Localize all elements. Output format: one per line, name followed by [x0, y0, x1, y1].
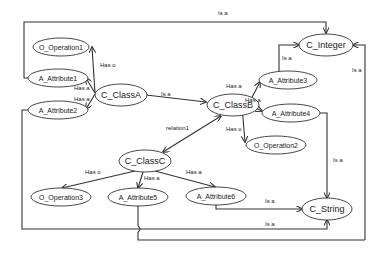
- node-label: O_Operation1: [39, 44, 83, 52]
- edge-label: Is a: [265, 221, 275, 227]
- edge-label: Has o: [85, 169, 101, 175]
- ontology-diagram: O_Operation1A_Attribute1A_Attribute2C_Cl…: [0, 0, 382, 253]
- node-o-operation3[interactable]: O_Operation3: [31, 188, 91, 206]
- diagram-svg: O_Operation1A_Attribute1A_Attribute2C_Cl…: [0, 0, 382, 253]
- node-label: C_ClassA: [101, 90, 141, 100]
- node-label: A_Attribute4: [272, 110, 311, 118]
- node-c-string[interactable]: C_String: [302, 198, 352, 220]
- node-a-attribute4[interactable]: A_Attribute4: [262, 104, 320, 122]
- edge-string-to-integer: [353, 45, 365, 240]
- edge-classC-to-attr6: [155, 171, 215, 187]
- edge-label: Has o: [226, 126, 242, 132]
- edge-classA-to-op1: [92, 47, 95, 93]
- edge-attr4-to-string: [320, 113, 327, 198]
- node-a-attribute6[interactable]: A_Attribute6: [186, 187, 246, 205]
- node-o-operation2[interactable]: O_Operation2: [246, 136, 306, 154]
- edge-classC-to-attr5: [138, 172, 143, 188]
- edge-label: Is a: [161, 91, 171, 97]
- node-c-classc[interactable]: C_ClassC: [119, 150, 171, 172]
- node-label: A_Attribute1: [39, 75, 78, 83]
- node-a-attribute5[interactable]: A_Attribute5: [108, 188, 168, 206]
- node-label: A_Attribute5: [119, 194, 158, 202]
- node-label: O_Operation3: [39, 194, 83, 202]
- edge-label: Is a: [265, 198, 275, 204]
- edge-label: Has a: [226, 83, 242, 89]
- edge-label: Is a: [218, 10, 228, 16]
- edge-label: Has o: [100, 62, 116, 68]
- node-a-attribute2[interactable]: A_Attribute2: [28, 101, 88, 119]
- node-label: O_Operation2: [254, 142, 298, 150]
- edge-label: Has a: [186, 169, 202, 175]
- node-a-attribute3[interactable]: A_Attribute3: [259, 71, 317, 89]
- node-c-integer[interactable]: C_Integer: [299, 34, 353, 56]
- node-label: C_ClassC: [125, 156, 166, 166]
- node-label: A_Attribute2: [39, 107, 78, 115]
- node-o-operation1[interactable]: O_Operation1: [33, 38, 89, 56]
- edge-label: Has a: [74, 85, 90, 91]
- node-label: A_Attribute6: [197, 193, 236, 201]
- nodes-layer: O_Operation1A_Attribute1A_Attribute2C_Cl…: [28, 34, 353, 220]
- edge-label: Is a: [352, 67, 362, 73]
- edge-label: Has a: [144, 175, 160, 181]
- edge-label: Is a: [333, 157, 343, 163]
- edge-classA-to-classB: [146, 95, 206, 102]
- edge-attr6-to-string: [216, 205, 302, 209]
- edge-label: Has a: [245, 97, 261, 103]
- node-label: C_String: [309, 204, 344, 214]
- edge-label: relation1: [166, 125, 190, 131]
- edge-label: Has a: [74, 96, 90, 102]
- edge-classB-to-classC: [163, 116, 221, 152]
- node-c-classa[interactable]: C_ClassA: [95, 84, 147, 106]
- node-label: C_Integer: [306, 40, 346, 50]
- edge-label: Is a: [282, 55, 292, 61]
- node-label: A_Attribute3: [269, 77, 308, 85]
